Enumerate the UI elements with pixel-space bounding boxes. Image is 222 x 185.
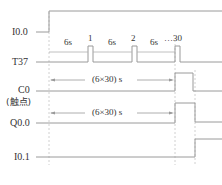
- arrow-right-head-icon: [169, 79, 174, 82]
- arrow-left-head-icon: [50, 112, 55, 115]
- t37-interval-label: 6s: [64, 37, 72, 47]
- t37-ellipsis: …: [164, 33, 173, 43]
- signal-label-q00: Q0.0: [10, 117, 30, 128]
- signal-label-c0: C0: [18, 84, 30, 95]
- t37-pulse-label: 2: [131, 33, 136, 43]
- t37-interval-label: 6s: [150, 37, 158, 47]
- t37-waveform: [36, 46, 222, 62]
- q00-span-label: (6×30) s: [92, 107, 122, 117]
- i00-waveform: [36, 11, 222, 32]
- arrow-right-head-icon: [169, 112, 174, 115]
- c0-span-label: (6×30) s: [92, 74, 122, 84]
- signal-label-i00: I0.0: [12, 26, 28, 37]
- c0-waveform: [36, 73, 222, 91]
- t37-interval-label: 6s: [108, 37, 116, 47]
- signal-label-i01: I0.1: [14, 151, 30, 162]
- timing-diagram: I0.0 T37 C0 (触点) Q0.0 I0.1 6s 1 6s 2 6s …: [0, 0, 222, 185]
- waveforms: [0, 0, 222, 185]
- t37-pulse-label: 30: [173, 33, 182, 43]
- arrow-left-head-icon: [50, 79, 55, 82]
- t37-pulse-label: 1: [88, 33, 93, 43]
- signal-label-t37: T37: [12, 56, 28, 67]
- i01-waveform: [36, 139, 222, 157]
- signal-sublabel-c0: (触点): [6, 95, 31, 108]
